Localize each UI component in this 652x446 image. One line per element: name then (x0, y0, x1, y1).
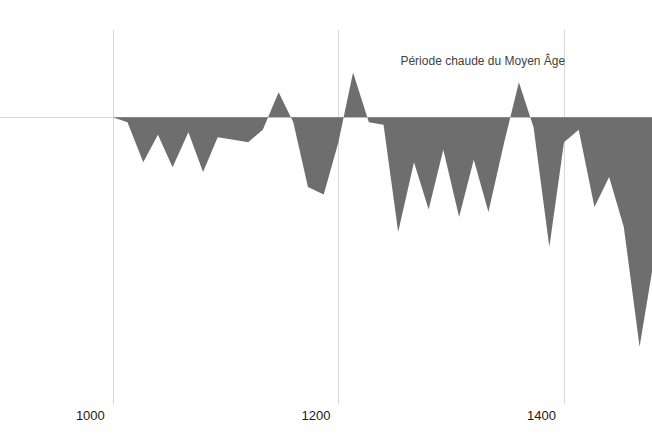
x-tick-label-1400: 1400 (527, 408, 556, 423)
temperature-anomaly-area-chart: 100012001400 Période chaude du Moyen Âge (0, 0, 652, 446)
chart-annotations: Période chaude du Moyen Âge (400, 53, 565, 68)
x-tick-label-1000: 1000 (76, 408, 105, 423)
chart-container: 100012001400 Période chaude du Moyen Âge (0, 0, 652, 446)
annotation-label-0: Période chaude du Moyen Âge (400, 53, 565, 68)
x-tick-label-1200: 1200 (301, 408, 330, 423)
